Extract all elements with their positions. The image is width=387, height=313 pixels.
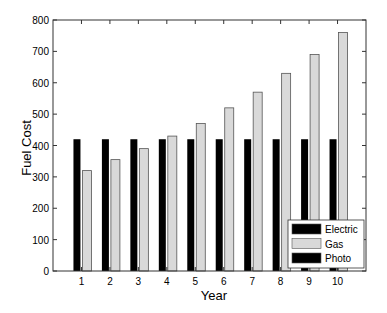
bar-gas-2 [111, 160, 120, 271]
legend-label-gas: Gas [325, 239, 343, 250]
x-tick-label: 2 [107, 276, 113, 287]
bar-gas-7 [253, 92, 262, 271]
y-tick-label: 300 [32, 172, 49, 183]
legend-label-photo: Photo [325, 253, 352, 264]
x-tick-label: 9 [306, 276, 312, 287]
y-axis-label: Fuel Cost [19, 120, 34, 176]
bar-electric-8 [273, 139, 280, 271]
bar-electric-4 [159, 139, 166, 271]
bar-electric-2 [102, 139, 109, 271]
x-tick-label: 1 [79, 276, 85, 287]
bar-electric-7 [244, 139, 251, 271]
y-tick-label: 100 [32, 235, 49, 246]
bar-gas-6 [225, 108, 234, 271]
bar-electric-5 [187, 139, 194, 271]
bar-electric-6 [216, 139, 223, 271]
y-tick-label: 800 [32, 15, 49, 26]
y-tick-label: 700 [32, 46, 49, 57]
y-tick-label: 200 [32, 203, 49, 214]
y-tick-label: 0 [43, 266, 49, 277]
legend-swatch-gas [292, 239, 321, 249]
bar-electric-1 [73, 139, 80, 271]
legend-swatch-photo [292, 253, 321, 263]
bar-electric-3 [130, 139, 137, 271]
x-tick-label: 10 [332, 276, 344, 287]
bar-gas-1 [82, 171, 91, 271]
bar-gas-5 [196, 124, 205, 271]
x-tick-label: 3 [136, 276, 142, 287]
legend-label-electric: Electric [325, 224, 358, 235]
legend-swatch-electric [292, 224, 321, 234]
y-tick-label: 500 [32, 109, 49, 120]
bar-gas-3 [139, 149, 148, 271]
x-axis-label: Year [201, 288, 228, 303]
x-tick-label: 5 [192, 276, 198, 287]
y-tick-label: 400 [32, 141, 49, 152]
y-tick-label: 600 [32, 78, 49, 89]
x-tick-label: 4 [164, 276, 170, 287]
x-tick-label: 6 [221, 276, 227, 287]
legend: ElectricGasPhoto [288, 220, 364, 268]
bar-gas-4 [168, 136, 177, 271]
x-tick-label: 8 [278, 276, 284, 287]
x-tick-label: 7 [249, 276, 255, 287]
bar-chart: 0100200300400500600700800 12345678910 Ye… [0, 0, 387, 313]
